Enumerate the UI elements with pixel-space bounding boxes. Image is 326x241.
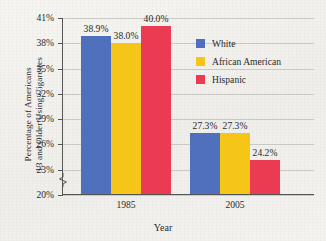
legend-swatch-icon xyxy=(196,75,205,84)
x-axis-group-label: 1985 xyxy=(71,199,181,210)
legend-item[interactable]: White xyxy=(196,36,322,51)
x-axis-group-label: 2005 xyxy=(180,199,290,210)
x-axis-line xyxy=(62,194,314,195)
x-axis-title: Year xyxy=(0,222,326,233)
bar xyxy=(190,133,220,194)
legend-item[interactable]: African American xyxy=(196,54,322,69)
y-axis-tick-labels: 20%23%26%29%32%35%38%41% xyxy=(0,18,58,195)
gridline xyxy=(62,18,314,19)
y-axis-tick-label: 32% xyxy=(4,89,54,99)
gridline xyxy=(62,195,314,196)
bar-value-label: 27.3% xyxy=(214,121,256,131)
legend-label: White xyxy=(212,39,235,49)
y-axis-tick-label: 29% xyxy=(4,114,54,124)
legend-label: Hispanic xyxy=(212,75,246,85)
bar-value-label: 38.0% xyxy=(105,31,147,41)
bar xyxy=(250,160,280,194)
bar xyxy=(111,43,141,194)
x-axis-tick-labels: 19852005 xyxy=(62,199,314,213)
y-axis-tick-label: 38% xyxy=(4,38,54,48)
legend-item[interactable]: Hispanic xyxy=(196,72,322,87)
y-axis-tick-label: 23% xyxy=(4,165,54,175)
bar xyxy=(81,36,111,194)
bar xyxy=(220,133,250,194)
bar-value-label: 40.0% xyxy=(135,14,177,24)
y-axis-tick-label: 20% xyxy=(4,190,54,200)
y-axis-tick-label: 41% xyxy=(4,13,54,23)
legend-swatch-icon xyxy=(196,39,205,48)
y-axis-tick xyxy=(58,195,63,196)
axis-break-icon xyxy=(58,173,68,187)
bar-chart: Percentage of Americans 13 and Older Usi… xyxy=(0,0,326,241)
bar xyxy=(141,26,171,194)
y-axis-line xyxy=(62,18,63,195)
legend-label: African American xyxy=(212,57,281,67)
y-axis-tick-label: 26% xyxy=(4,139,54,149)
y-axis-tick-label: 35% xyxy=(4,64,54,74)
bar-value-label: 24.2% xyxy=(244,148,286,158)
legend: WhiteAfrican AmericanHispanic xyxy=(196,36,322,90)
legend-swatch-icon xyxy=(196,57,205,66)
